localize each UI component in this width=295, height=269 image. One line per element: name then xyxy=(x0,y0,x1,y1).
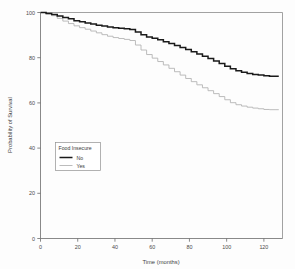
plot-frame xyxy=(41,13,283,239)
x-tick-label: 40 xyxy=(112,244,118,250)
y-axis-title: Probability of Survival xyxy=(7,97,13,153)
x-tick-label: 0 xyxy=(39,244,42,250)
x-axis-tick-labels: 020406080100120 xyxy=(39,244,268,250)
y-tick-label: 60 xyxy=(29,100,35,106)
series-line-no xyxy=(41,13,279,77)
data-series-layer xyxy=(41,13,279,110)
x-axis-title: Time (months) xyxy=(142,259,179,265)
x-tick-label: 20 xyxy=(75,244,81,250)
figure-container: 020406080100120 020406080100 Time (month… xyxy=(0,0,295,269)
y-tick-label: 0 xyxy=(32,236,35,242)
y-tick-label: 100 xyxy=(26,10,35,16)
y-axis-ticks xyxy=(37,13,40,239)
legend-label-no: No xyxy=(77,155,84,161)
legend-label-yes: Yes xyxy=(77,163,86,169)
legend-title: Food Insecure xyxy=(59,145,92,151)
y-tick-label: 20 xyxy=(29,190,35,196)
x-tick-label: 100 xyxy=(222,244,231,250)
survival-curve-chart: 020406080100120 020406080100 Time (month… xyxy=(0,0,295,269)
x-tick-label: 120 xyxy=(259,244,268,250)
x-tick-label: 80 xyxy=(186,244,192,250)
y-axis-tick-labels: 020406080100 xyxy=(26,10,35,242)
chart-legend: Food InsecureNoYes xyxy=(56,143,101,171)
y-tick-label: 80 xyxy=(29,55,35,61)
x-tick-label: 60 xyxy=(149,244,155,250)
series-line-yes xyxy=(41,13,279,110)
y-tick-label: 40 xyxy=(29,145,35,151)
x-axis-ticks xyxy=(41,239,264,242)
